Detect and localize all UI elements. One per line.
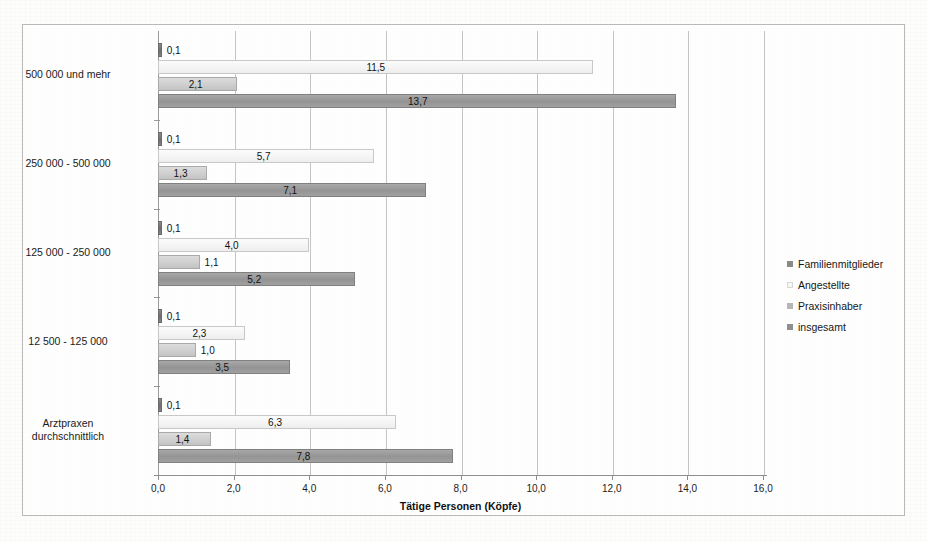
category-separator <box>154 209 160 210</box>
category-separator <box>154 297 160 298</box>
bar-row: 5,7 <box>158 149 763 163</box>
x-axis-tick <box>309 475 310 480</box>
legend-label: Praxisinhaber <box>798 300 862 312</box>
bar-row: 1,1 <box>158 255 763 269</box>
legend-label: Familienmitglieder <box>798 258 883 270</box>
bar-row: 4,0 <box>158 238 763 252</box>
x-axis-tick-label: 10,0 <box>526 483 545 494</box>
bar-value-label: 0,1 <box>167 44 181 55</box>
category-label: Arztpraxendurchschnittlich <box>0 417 158 443</box>
bar-value-label: 13,7 <box>408 95 427 106</box>
gridline <box>764 31 765 475</box>
bar-row: 5,2 <box>158 272 763 286</box>
bar-value-label: 1,1 <box>205 256 219 267</box>
x-axis-title: Tätige Personen (Köpfe) <box>158 500 763 512</box>
chart-legend: FamilienmitgliederAngestelltePraxisinhab… <box>787 253 927 337</box>
legend-item[interactable]: Familienmitglieder <box>787 253 927 274</box>
x-axis-tick-label: 2,0 <box>227 483 241 494</box>
legend-item[interactable]: insgesamt <box>787 316 927 337</box>
bar[interactable] <box>158 221 162 235</box>
bar[interactable] <box>158 43 162 57</box>
bar-row: 1,3 <box>158 166 763 180</box>
bar-row: 7,1 <box>158 183 763 197</box>
bar-row: 0,1 <box>158 43 763 57</box>
bar-value-label: 0,1 <box>167 311 181 322</box>
bar-row: 13,7 <box>158 94 763 108</box>
bar-value-label: 6,3 <box>268 417 282 428</box>
x-axis-tick-label: 12,0 <box>602 483 621 494</box>
bar-value-label: 1,0 <box>201 345 215 356</box>
bar[interactable] <box>158 132 162 146</box>
bar[interactable] <box>158 398 162 412</box>
bar-value-label: 3,5 <box>215 362 229 373</box>
category-separator <box>154 120 160 121</box>
bar-value-label: 1,3 <box>174 167 188 178</box>
x-axis-tick-label: 14,0 <box>678 483 697 494</box>
category-label: 500 000 und mehr <box>0 68 158 81</box>
x-axis-tick <box>385 475 386 480</box>
legend-swatch-icon <box>787 282 793 288</box>
x-axis-tick <box>461 475 462 480</box>
bar[interactable] <box>158 343 196 357</box>
bar-row: 6,3 <box>158 415 763 429</box>
bar-row: 2,3 <box>158 326 763 340</box>
legend-item[interactable]: Angestellte <box>787 274 927 295</box>
bar-row: 0,1 <box>158 309 763 323</box>
x-axis-tick-label: 16,0 <box>753 483 772 494</box>
bar-value-label: 5,2 <box>247 273 261 284</box>
bar-value-label: 0,1 <box>167 133 181 144</box>
x-axis-tick-label: 0,0 <box>151 483 165 494</box>
legend-label: Angestellte <box>798 279 850 291</box>
bar-row: 0,1 <box>158 132 763 146</box>
bar-value-label: 1,4 <box>175 434 189 445</box>
category-label: 125 000 - 250 000 <box>0 246 158 259</box>
bar-value-label: 7,8 <box>296 451 310 462</box>
x-axis-tick <box>612 475 613 480</box>
bar-value-label: 2,1 <box>189 78 203 89</box>
bar-row: 1,4 <box>158 432 763 446</box>
bar-row: 3,5 <box>158 360 763 374</box>
legend-swatch-icon <box>787 303 793 309</box>
legend-label: insgesamt <box>798 321 846 333</box>
x-axis-tick <box>536 475 537 480</box>
bar-row: 1,0 <box>158 343 763 357</box>
bar-value-label: 0,1 <box>167 400 181 411</box>
bar[interactable] <box>158 309 162 323</box>
x-axis-tick <box>763 475 764 480</box>
x-axis-tick <box>158 475 159 480</box>
legend-swatch-icon <box>787 261 793 267</box>
x-axis-tick-label: 6,0 <box>378 483 392 494</box>
bar-value-label: 0,1 <box>167 222 181 233</box>
bar-row: 2,1 <box>158 77 763 91</box>
bar-value-label: 4,0 <box>225 239 239 250</box>
bar-value-label: 2,3 <box>192 328 206 339</box>
chart-frame: Tätige Personen (Köpfe) Familienmitglied… <box>22 24 905 516</box>
legend-item[interactable]: Praxisinhaber <box>787 295 927 316</box>
bar[interactable] <box>158 255 200 269</box>
x-axis-tick <box>234 475 235 480</box>
category-separator <box>154 386 160 387</box>
bar-value-label: 5,7 <box>257 150 271 161</box>
bar-value-label: 7,1 <box>283 184 297 195</box>
bar-row: 11,5 <box>158 60 763 74</box>
bar-value-label: 11,5 <box>366 61 385 72</box>
bar-row: 0,1 <box>158 398 763 412</box>
bar-row: 0,1 <box>158 221 763 235</box>
legend-swatch-icon <box>787 324 793 330</box>
x-axis-tick-label: 4,0 <box>302 483 316 494</box>
category-label: 12 500 - 125 000 <box>0 335 158 348</box>
bar-row: 7,8 <box>158 449 763 463</box>
x-axis-tick-label: 8,0 <box>454 483 468 494</box>
category-label: 250 000 - 500 000 <box>0 157 158 170</box>
x-axis-tick <box>687 475 688 480</box>
